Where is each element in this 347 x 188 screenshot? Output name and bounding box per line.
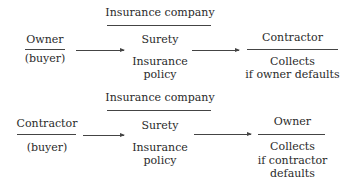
surety-line1: Insurance — [125, 55, 195, 68]
insurance-company-header: Insurance company — [105, 91, 215, 104]
buyer-divider — [25, 49, 65, 50]
arrow-right-icon — [194, 134, 251, 135]
beneficiary-line1: Collects — [250, 140, 335, 153]
insurance-company-header: Insurance company — [105, 6, 215, 19]
buyer-subtitle: (buyer) — [15, 52, 75, 65]
surety-title: Surety — [125, 33, 195, 46]
header-divider — [107, 110, 211, 111]
surety-line2: policy — [125, 68, 195, 81]
beneficiary-line3: defaults — [250, 167, 335, 180]
buyer-divider — [17, 134, 76, 135]
beneficiary-line2: if contractor — [250, 154, 335, 167]
buyer-title: Owner — [15, 33, 75, 46]
beneficiary-divider — [247, 49, 338, 50]
beneficiary-divider — [258, 134, 325, 135]
surety-title: Surety — [125, 119, 195, 132]
beneficiary-line1: Collects — [245, 55, 340, 68]
beneficiary-line2: if owner defaults — [245, 68, 340, 81]
arrow-right-icon — [76, 50, 124, 51]
beneficiary-title: Contractor — [245, 31, 340, 44]
beneficiary-title: Owner — [255, 115, 330, 128]
header-divider — [107, 25, 211, 26]
surety-line1: Insurance — [125, 141, 195, 154]
surety-line2: policy — [125, 154, 195, 167]
arrow-right-icon — [83, 135, 124, 136]
buyer-title: Contractor — [12, 117, 82, 130]
arrow-right-icon — [192, 50, 239, 51]
buyer-subtitle: (buyer) — [12, 141, 82, 154]
